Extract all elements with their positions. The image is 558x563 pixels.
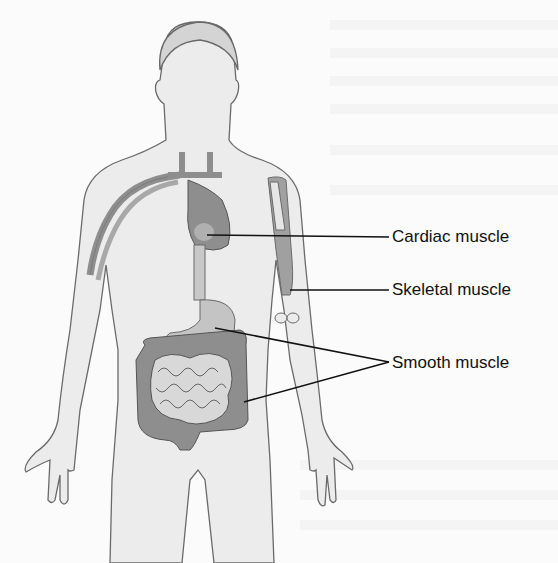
body-outline	[25, 22, 353, 563]
esophagus	[194, 245, 205, 300]
smooth-muscle-label: Smooth muscle	[392, 354, 509, 371]
skeletal-muscle-label: Skeletal muscle	[392, 281, 511, 298]
cardiac-muscle-label: Cardiac muscle	[392, 228, 509, 245]
